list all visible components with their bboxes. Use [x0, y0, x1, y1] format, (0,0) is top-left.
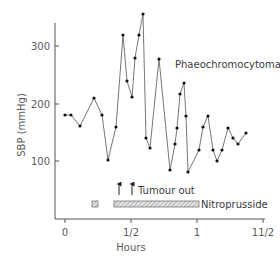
y-tick-300: 300 [31, 41, 50, 52]
nitroprusside-label: Nitroprusside [201, 199, 268, 210]
x-tick-0: 0 [62, 227, 68, 238]
x-ticks [65, 219, 263, 223]
sbp-line [65, 14, 246, 172]
x-tick-1: 1 [194, 227, 200, 238]
x-axis-label: Hours [116, 242, 145, 253]
y-tick-200: 200 [31, 99, 50, 110]
y-tick-100: 100 [31, 156, 50, 167]
x-tick-1-half: 11/2 [252, 227, 274, 238]
y-ticks [55, 46, 59, 161]
nitroprusside-bar [114, 201, 199, 207]
y-axis-label: SBP (mmHg) [16, 93, 27, 157]
phaeochromocytoma-label: Phaeochromocytoma [175, 59, 280, 70]
tumour-out-label: Tumour out [137, 185, 195, 196]
small-hatched-bar [92, 201, 98, 207]
x-tick-half: 1/2 [123, 227, 139, 238]
sbp-chart: 300 200 100 0 1/2 1 11/2 Hours SBP (mmHg… [0, 0, 280, 261]
